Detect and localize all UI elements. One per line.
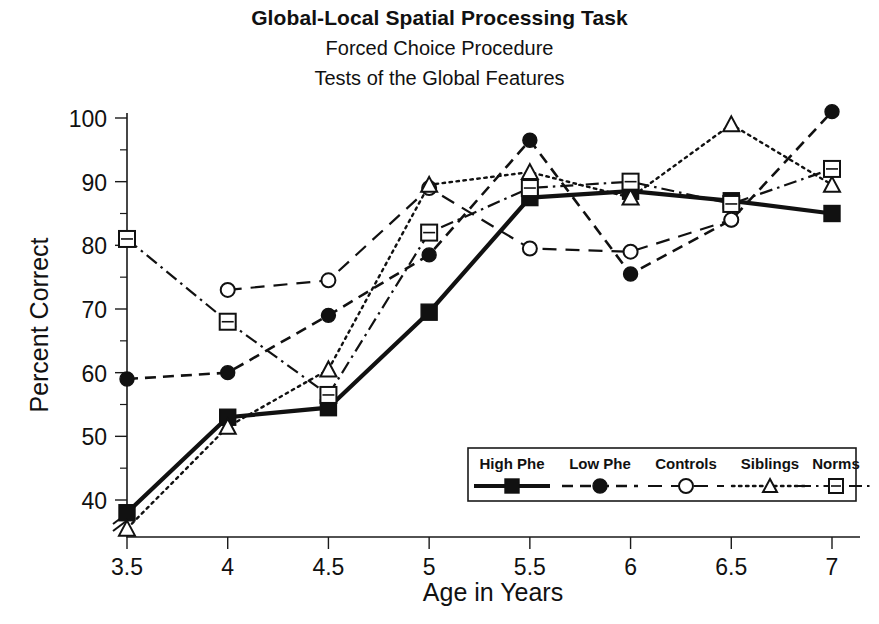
marker-filled-square [119,505,135,521]
plot-area: 405060708090100 3.544.555.566.57 Age in … [0,0,879,624]
marker-circled-plus [829,479,843,493]
y-tick-label: 40 [81,488,107,514]
x-tick-label: 7 [826,554,839,580]
x-axis-ticks [127,537,832,549]
chart-figure: Global-Local Spatial Processing Task For… [0,0,879,624]
marker-open-circle [221,283,235,297]
marker-open-circle [724,213,738,227]
x-tick-label: 4.5 [312,554,344,580]
series-line-low-phe [127,112,832,379]
series-line-controls [228,188,732,290]
y-tick-label: 70 [81,297,107,323]
marker-circled-plus [522,180,538,196]
x-tick-label: 5 [423,554,436,580]
x-tick-label: 3.5 [111,554,143,580]
marker-filled-circle [221,366,235,380]
marker-filled-circle [523,133,537,147]
marker-filled-circle [120,372,134,386]
marker-filled-circle [624,267,638,281]
legend-label: Siblings [741,455,799,472]
y-tick-label: 60 [81,361,107,387]
y-tick-label: 90 [81,170,107,196]
marker-open-circle [321,273,335,287]
series-markers-controls [221,181,739,297]
y-tick-label: 50 [81,424,107,450]
legend-label: Low Phe [569,455,631,472]
x-tick-label: 5.5 [514,554,546,580]
legend: High PheLow PheControlsSiblingsNorms [468,448,874,501]
marker-filled-circle [825,105,839,119]
x-tick-label: 4 [221,554,234,580]
marker-circled-plus [220,314,236,330]
legend-label: Controls [655,455,717,472]
y-axis-ticks [115,118,127,516]
marker-open-circle [523,242,537,256]
x-axis-tick-labels: 3.544.555.566.57 [111,554,838,580]
marker-open-triangle [522,164,538,179]
marker-open-triangle [824,177,840,192]
y-tick-label: 80 [81,233,107,259]
marker-filled-circle [593,479,607,493]
marker-filled-circle [422,248,436,262]
legend-label: Norms [812,455,860,472]
series-markers-low-phe [120,105,839,386]
marker-open-circle [679,479,693,493]
marker-filled-square [824,206,840,222]
x-tick-label: 6.5 [715,554,747,580]
x-axis-title: Age in Years [423,578,563,606]
marker-circled-plus [119,231,135,247]
y-axis-tick-labels: 405060708090100 [69,106,107,514]
marker-open-circle [624,245,638,259]
marker-filled-square [505,479,519,493]
marker-open-triangle [320,361,336,376]
legend-label: High Phe [479,455,544,472]
marker-circled-plus [824,161,840,177]
marker-circled-plus [723,196,739,212]
marker-circled-plus [421,225,437,241]
marker-open-triangle [723,116,739,131]
marker-filled-circle [321,308,335,322]
marker-circled-plus [623,174,639,190]
marker-filled-square [421,304,437,320]
marker-circled-plus [320,387,336,403]
y-tick-label: 100 [69,106,107,132]
x-tick-label: 6 [624,554,637,580]
y-axis-title: Percent Correct [25,237,53,412]
